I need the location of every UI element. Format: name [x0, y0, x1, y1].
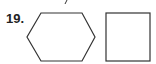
shapes-figure: [0, 0, 156, 64]
stray-mark: [65, 0, 67, 4]
square-shape: [106, 13, 150, 61]
hexagon-shape: [27, 13, 95, 61]
